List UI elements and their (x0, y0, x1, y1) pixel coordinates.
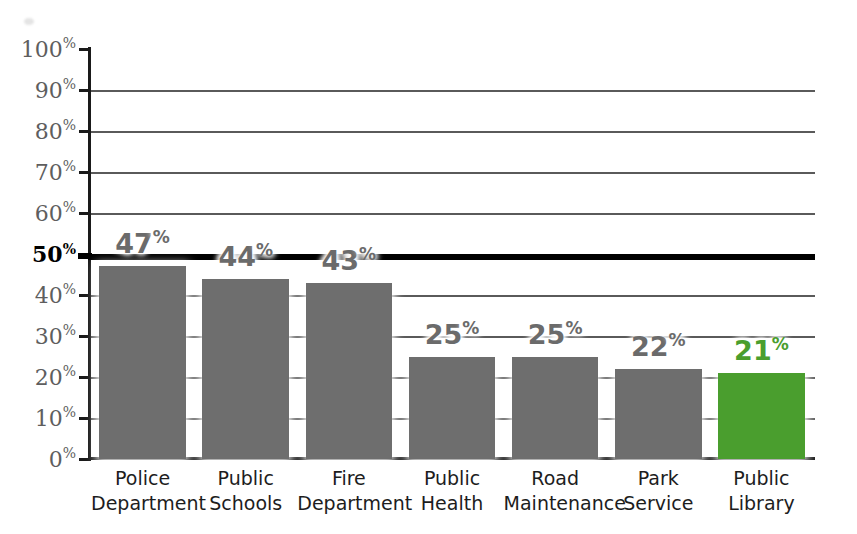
y-axis-label-50: 50% (32, 241, 76, 267)
y-axis-label-40: 40% (35, 283, 76, 308)
y-axis-label-100: 100% (21, 37, 76, 62)
y-tick-0 (79, 458, 91, 461)
category-label: PoliceDepartment (91, 466, 194, 516)
category-label: PublicSchools (194, 466, 297, 516)
category-label: ParkService (607, 466, 710, 516)
bar-slot: 44% (202, 49, 289, 459)
bar-value-label: 22% (631, 331, 686, 362)
y-tick-80 (79, 130, 91, 133)
y-tick-40 (79, 294, 91, 297)
y-axis-label-0: 0% (49, 447, 76, 472)
scan-artifact (24, 18, 34, 25)
y-tick-10 (79, 417, 91, 420)
bar-value-label: 43% (322, 245, 377, 276)
y-axis-label-20: 20% (35, 365, 76, 390)
y-tick-70 (79, 171, 91, 174)
bars-group: 47%44%43%25%25%22%21% (91, 49, 813, 459)
bar-road-maintenance[interactable] (512, 357, 599, 460)
category-label: PublicHealth (400, 466, 503, 516)
chart-canvas: 0%10%20%30%40%50%60%70%80%90%100% 47%44%… (0, 0, 857, 534)
bar-slot: 21% (718, 49, 805, 459)
bar-value-label: 25% (528, 319, 583, 350)
y-tick-90 (79, 89, 91, 92)
y-tick-100 (79, 48, 91, 51)
y-axis-label-30: 30% (35, 324, 76, 349)
category-label: RoadMaintenance (504, 466, 607, 516)
bar-value-label: 21% (734, 335, 789, 366)
bar-slot: 47% (99, 49, 186, 459)
y-axis-label-70: 70% (35, 160, 76, 185)
y-tick-50 (78, 253, 92, 259)
bar-public-library[interactable] (718, 373, 805, 459)
y-axis-label-80: 80% (35, 119, 76, 144)
y-tick-30 (79, 335, 91, 338)
bar-slot: 25% (512, 49, 599, 459)
y-tick-60 (79, 212, 91, 215)
y-axis-label-90: 90% (35, 78, 76, 103)
category-label: PublicLibrary (710, 466, 813, 516)
bar-slot: 43% (306, 49, 393, 459)
y-tick-20 (79, 376, 91, 379)
bar-fire-department[interactable] (306, 283, 393, 459)
bar-value-label: 25% (425, 319, 480, 350)
bar-slot: 22% (615, 49, 702, 459)
category-label: FireDepartment (297, 466, 400, 516)
category-axis-labels: PoliceDepartmentPublicSchoolsFireDepartm… (91, 466, 813, 528)
bar-public-schools[interactable] (202, 279, 289, 459)
bar-value-label: 47% (115, 228, 170, 259)
bar-value-label: 44% (218, 241, 273, 272)
bar-public-health[interactable] (409, 357, 496, 460)
y-axis-label-60: 60% (35, 201, 76, 226)
y-axis-label-10: 10% (35, 406, 76, 431)
bar-police-department[interactable] (99, 266, 186, 459)
bar-park-service[interactable] (615, 369, 702, 459)
bar-slot: 25% (409, 49, 496, 459)
